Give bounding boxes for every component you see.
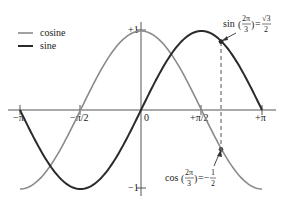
tick-label-neg-one: −1 xyxy=(128,182,139,193)
annotation-cosine-eq: =− xyxy=(198,172,210,183)
legend: cosine sine xyxy=(18,27,66,51)
annotation-sine-val-num: √3 xyxy=(262,14,270,23)
annotation-sine-arg-num: 2π xyxy=(242,14,250,23)
tick-label-zero: 0 xyxy=(144,112,149,123)
tick-label-pos-pi: +π xyxy=(255,112,266,123)
legend-label-sine: sine xyxy=(40,40,57,51)
annotation-cosine-val-den: 2 xyxy=(211,179,215,188)
arrowhead-icon xyxy=(222,36,228,41)
annotation-sine-val-den: 2 xyxy=(264,25,268,34)
paren-close: ) xyxy=(194,173,197,185)
legend-label-cosine: cosine xyxy=(40,27,66,38)
paren-close: ) xyxy=(251,19,254,31)
sine-cosine-chart: −π −π/2 0 +π/2 +π +1 −1 cosine sine sin … xyxy=(0,0,281,212)
annotation-sine-eq: = xyxy=(255,18,261,29)
annotation-cosine-func: cos xyxy=(165,172,178,183)
annotation-sine-func: sin xyxy=(223,18,235,29)
annotation-cosine: cos ( 2π 3 ) =− 1 2 xyxy=(165,150,222,188)
annotation-sine: sin ( 2π 3 ) = √3 2 xyxy=(222,14,271,41)
annotation-cosine-arg-num: 2π xyxy=(185,168,193,177)
sine-point-marker xyxy=(219,39,224,44)
annotation-cosine-val-num: 1 xyxy=(211,168,215,177)
annotation-sine-arg-den: 3 xyxy=(244,25,248,34)
annotation-cosine-arg-den: 3 xyxy=(187,179,191,188)
